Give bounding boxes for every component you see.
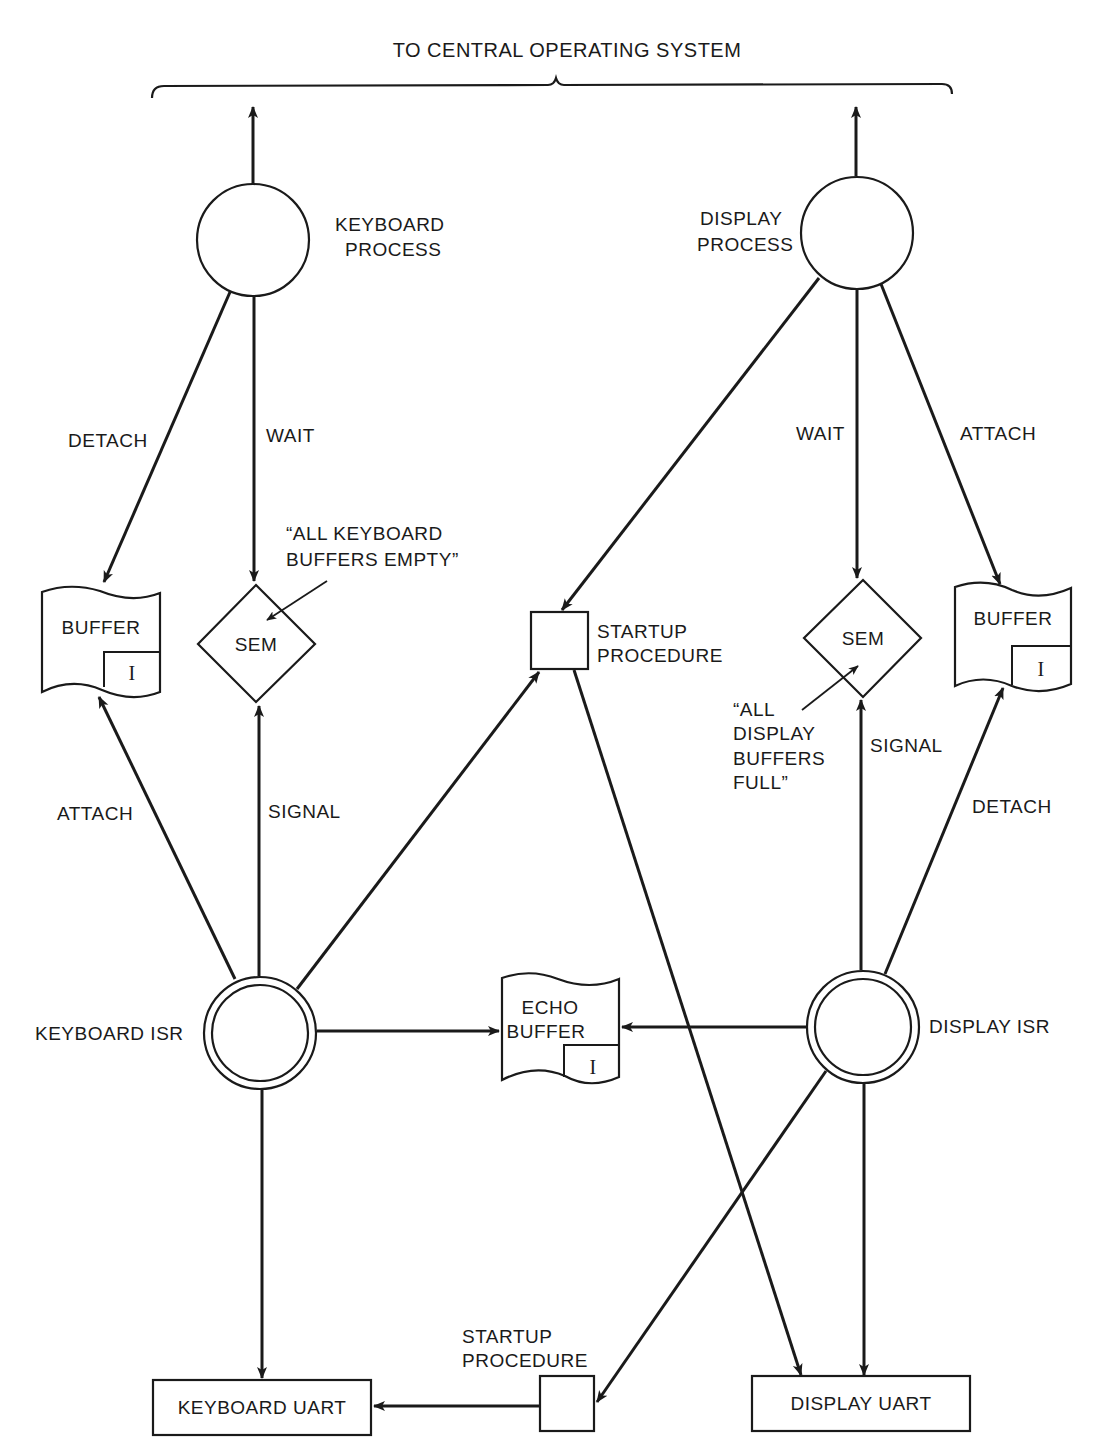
display-sem-note-3: BUFFERS [733, 748, 825, 769]
display-sem-note-pointer [802, 666, 858, 710]
keyboard-sem-note-pointer [267, 581, 327, 620]
display-uart-node: DISPLAY UART [752, 1376, 970, 1431]
keyboard-uart-node: KEYBOARD UART [153, 1380, 371, 1435]
dp-wait-label: WAIT [796, 423, 845, 444]
dp-startup-edge [562, 278, 819, 610]
keyboard-semaphore-node: SEM [198, 585, 315, 702]
display-sem-note-4: FULL” [733, 772, 788, 793]
display-process-label: DISPLAY [700, 208, 782, 229]
display-buffer-label: BUFFER [974, 608, 1053, 629]
keyboard-isr-node: KEYBOARD ISR [35, 977, 316, 1089]
echo-buffer-label: ECHO [522, 997, 579, 1018]
echo-buffer-index: I [589, 1056, 596, 1078]
keyboard-buffer-label: BUFFER [62, 617, 141, 638]
keyboard-uart-label: KEYBOARD UART [178, 1397, 347, 1418]
startup-bottom-label-2: PROCEDURE [462, 1350, 588, 1371]
kb-signal-label: SIGNAL [268, 801, 341, 822]
keyboard-sem-note-2: BUFFERS EMPTY” [286, 549, 459, 570]
display-semaphore-node: SEM [804, 580, 921, 697]
display-buffer-node: BUFFER I [955, 583, 1071, 691]
keyboard-isr-label: KEYBOARD ISR [35, 1023, 184, 1044]
startup-top-label-2: PROCEDURE [597, 645, 723, 666]
keyboard-buffer-node: BUFFER I [42, 587, 160, 697]
keyboard-process-label-2: PROCESS [345, 239, 441, 260]
dp-detach-edge [885, 688, 1003, 974]
keyboard-sem-label: SEM [235, 634, 278, 655]
keyboard-process-node: KEYBOARD PROCESS [197, 184, 445, 296]
display-uart-label: DISPLAY UART [790, 1393, 931, 1414]
process-diagram: TO CENTRAL OPERATING SYSTEM KEYBOARD PRO… [0, 0, 1102, 1452]
diagram-title: TO CENTRAL OPERATING SYSTEM [393, 39, 742, 61]
dp-attach-label: ATTACH [960, 423, 1036, 444]
keyboard-sem-note: “ALL KEYBOARD [286, 523, 443, 544]
kb-detach-label: DETACH [68, 430, 148, 451]
display-sem-note-2: DISPLAY [733, 723, 815, 744]
kb-isr-startup-edge [297, 672, 539, 989]
keyboard-process-label: KEYBOARD [335, 214, 445, 235]
startup-procedure-bottom-node: STARTUP PROCEDURE [462, 1326, 594, 1431]
dp-isr-startup-edge [597, 1071, 826, 1402]
echo-buffer-label-2: BUFFER [507, 1021, 586, 1042]
echo-buffer-node: ECHO BUFFER I [502, 973, 619, 1083]
display-sem-label: SEM [842, 628, 885, 649]
startup-procedure-top-node: STARTUP PROCEDURE [531, 612, 723, 669]
dp-detach-label: DETACH [972, 796, 1052, 817]
startup-top-label: STARTUP [597, 621, 687, 642]
display-isr-node: DISPLAY ISR [807, 971, 1050, 1083]
brace [152, 78, 952, 98]
kb-attach-edge [99, 697, 235, 979]
keyboard-buffer-index: I [128, 662, 135, 684]
display-buffer-index: I [1037, 658, 1044, 680]
startup-bottom-label: STARTUP [462, 1326, 552, 1347]
display-sem-note: “ALL [733, 699, 775, 720]
kb-attach-label: ATTACH [57, 803, 133, 824]
display-isr-label: DISPLAY ISR [929, 1016, 1050, 1037]
display-process-label-2: PROCESS [697, 234, 793, 255]
kb-wait-label: WAIT [266, 425, 315, 446]
dp-signal-label: SIGNAL [870, 735, 943, 756]
display-process-node: DISPLAY PROCESS [697, 177, 913, 289]
